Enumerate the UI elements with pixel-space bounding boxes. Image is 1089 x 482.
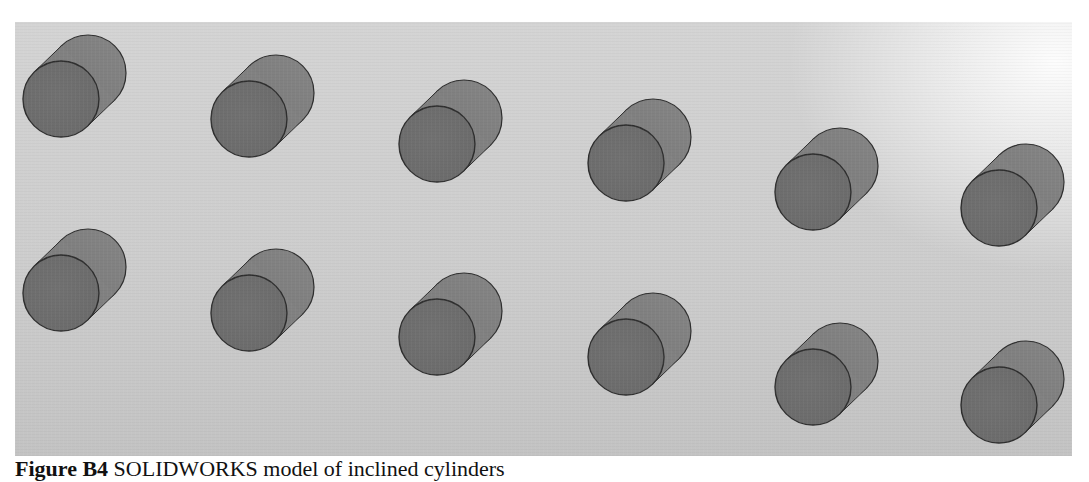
figure-caption: Figure B4 SOLIDWORKS model of inclined c… xyxy=(15,456,505,482)
caption-text: SOLIDWORKS model of inclined cylinders xyxy=(114,456,505,481)
cylinder xyxy=(211,55,314,157)
cylinder-front-face xyxy=(588,125,664,201)
cylinder-front-face xyxy=(399,299,475,375)
cylinder-front-face xyxy=(211,81,287,157)
cylinder xyxy=(775,323,878,425)
cylinder xyxy=(23,229,126,331)
cylinder xyxy=(961,144,1064,246)
cylinder xyxy=(399,273,502,375)
cylinder xyxy=(23,35,126,137)
cylinder-front-face xyxy=(775,349,851,425)
cylinder-front-face xyxy=(399,106,475,182)
upper-row xyxy=(23,35,1064,246)
cylinder-front-face xyxy=(961,367,1037,443)
cylinder-front-face xyxy=(211,275,287,351)
figure-image xyxy=(15,22,1072,456)
cylinder xyxy=(775,128,878,230)
cylinder-front-face xyxy=(588,319,664,395)
cylinder xyxy=(211,249,314,351)
cylinders-render xyxy=(15,22,1072,456)
cylinder-front-face xyxy=(23,255,99,331)
cylinder-front-face xyxy=(961,170,1037,246)
cylinder xyxy=(588,99,691,201)
figure-label: Figure B4 xyxy=(15,456,108,481)
cylinder-front-face xyxy=(775,154,851,230)
cylinder xyxy=(961,341,1064,443)
cylinder xyxy=(399,80,502,182)
cylinder xyxy=(588,293,691,395)
lower-row xyxy=(23,229,1064,443)
cylinder-front-face xyxy=(23,61,99,137)
